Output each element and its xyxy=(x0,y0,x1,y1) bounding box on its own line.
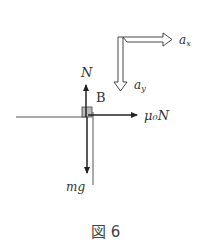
acceleration-y-arrow xyxy=(114,37,127,91)
normal-force-label: N xyxy=(80,65,93,80)
friction-force-label: μ₀N xyxy=(144,108,170,123)
gravity-force-label: mg xyxy=(66,180,85,194)
force-diagram: N B μ₀N mg ax ay 図 6 xyxy=(0,0,209,243)
acceleration-x-arrow xyxy=(123,33,172,46)
acceleration-y-label: ay xyxy=(134,78,146,93)
acceleration-x-label: ax xyxy=(179,33,191,48)
figure-caption: 図 6 xyxy=(91,223,120,241)
body-label: B xyxy=(96,90,106,105)
